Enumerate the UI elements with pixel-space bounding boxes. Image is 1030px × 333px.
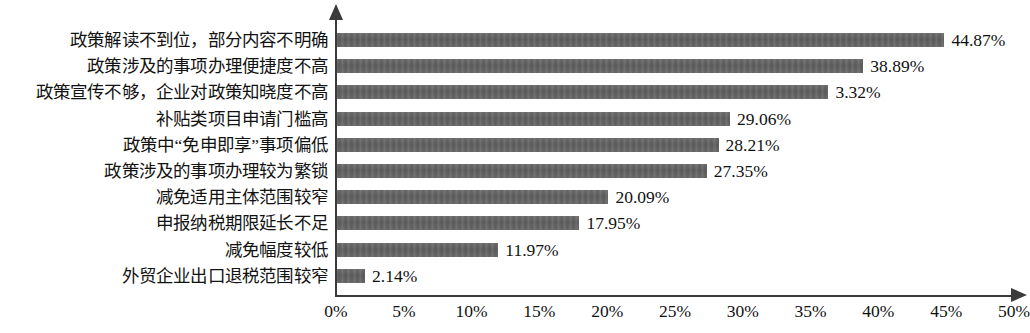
x-tick-label: 0% [324,303,347,321]
bar-value-label: 3.32% [835,84,880,102]
category-label: 外贸企业出口退税范围较窄 [122,268,328,286]
plot-area: 44.87%38.89%3.32%29.06%28.21%27.35%20.09… [336,0,1026,296]
bar [336,112,730,126]
bar [336,33,944,47]
x-tick-label: 30% [727,303,759,321]
x-tick-label: 10% [456,303,488,321]
category-label: 补贴类项目申请门槛高 [156,111,328,129]
bar-value-label: 27.35% [714,163,768,181]
bar-value-label: 11.97% [505,242,558,260]
bar-value-label: 38.89% [870,58,924,76]
bar [336,269,365,283]
bar-value-label: 20.09% [615,189,669,207]
bar-value-label: 44.87% [951,32,1005,50]
category-label: 减免适用主体范围较窄 [156,189,328,207]
category-label: 申报纳税期限延长不足 [156,215,328,233]
bar [336,243,498,257]
bar-value-label: 17.95% [586,215,640,233]
x-tick-label: 15% [523,303,555,321]
bar [336,164,707,178]
category-label: 减免幅度较低 [225,242,328,260]
category-label: 政策涉及的事项办理便捷度不高 [87,58,328,76]
x-tick-label: 35% [795,303,827,321]
x-axis-arrowhead-icon [1011,288,1027,302]
bar-value-label: 29.06% [737,111,791,129]
bar [336,59,863,73]
category-label: 政策解读不到位，部分内容不明确 [70,32,328,50]
category-axis-labels: 政策解读不到位，部分内容不明确政策涉及的事项办理便捷度不高政策宣传不够，企业对政… [0,0,332,296]
bar-value-label: 2.14% [372,268,417,286]
x-tick-label: 20% [591,303,623,321]
bar [336,138,719,152]
category-label: 政策涉及的事项办理较为繁锁 [104,163,328,181]
x-tick-label: 50% [998,303,1030,321]
y-axis-arrowhead-icon [329,4,343,20]
category-label: 政策中“免申即享”事项偏低 [123,137,328,155]
y-axis-line [335,18,337,296]
x-tick-label: 5% [392,303,415,321]
bar-value-label: 28.21% [726,137,780,155]
x-tick-label: 40% [862,303,894,321]
bar [336,85,828,99]
bar [336,216,579,230]
x-axis-tick-labels: 0%5%10%15%20%25%30%35%40%45%50% [0,303,1026,333]
x-tick-label: 45% [930,303,962,321]
x-axis-line [335,295,1014,297]
category-label: 政策宣传不够，企业对政策知晓度不高 [36,84,328,102]
bar [336,190,608,204]
x-tick-label: 25% [659,303,691,321]
